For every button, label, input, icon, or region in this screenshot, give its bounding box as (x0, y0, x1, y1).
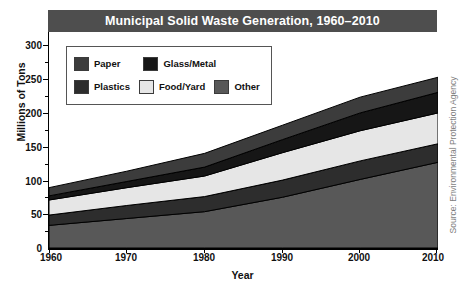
legend-item-food-yard: Food/Yard (139, 80, 205, 94)
legend-label-glass-metal: Glass/Metal (163, 58, 216, 69)
legend-label-paper: Paper (94, 58, 120, 69)
y-axis-title: Millions of Tons (15, 37, 27, 167)
chart-figure: Municipal Solid Waste Generation, 1960–2… (0, 0, 472, 291)
legend-swatch-plastics (74, 80, 89, 94)
legend-item-glass-metal: Glass/Metal (143, 57, 216, 71)
legend-item-paper: Paper (74, 57, 120, 71)
legend-swatch-other (214, 80, 229, 94)
legend-row: Plastics Food/Yard Other (74, 75, 265, 98)
y-tick-250: 250 (25, 74, 42, 85)
x-axis-title: Year (48, 269, 437, 281)
y-tick-150: 150 (25, 142, 42, 153)
chart-title-bar: Municipal Solid Waste Generation, 1960–2… (48, 10, 437, 32)
y-tick-50: 50 (31, 209, 42, 220)
x-tick-1970: 1970 (115, 252, 137, 263)
x-tick-2010: 2010 (422, 252, 444, 263)
source-note: Source: Environmental Protection Agency (448, 50, 458, 260)
legend-item-other: Other (214, 80, 259, 94)
chart-legend: Paper Glass/Metal Plastics Food/Yard Oth… (66, 46, 272, 105)
legend-swatch-food-yard (139, 80, 154, 94)
legend-swatch-glass-metal (143, 57, 158, 71)
y-tick-100: 100 (25, 176, 42, 187)
legend-swatch-paper (74, 57, 89, 71)
x-tick-2000: 2000 (348, 252, 370, 263)
y-tick-300: 300 (25, 40, 42, 51)
x-tick-1990: 1990 (271, 252, 293, 263)
legend-label-other: Other (234, 81, 259, 92)
page-title: Municipal Solid Waste Generation, 1960–2… (105, 14, 380, 28)
y-tick-200: 200 (25, 108, 42, 119)
legend-row: Paper Glass/Metal (74, 52, 265, 75)
x-tick-1980: 1980 (193, 252, 215, 263)
legend-label-food-yard: Food/Yard (159, 81, 205, 92)
legend-label-plastics: Plastics (94, 81, 130, 92)
x-tick-1960: 1960 (40, 252, 62, 263)
legend-item-plastics: Plastics (74, 80, 130, 94)
